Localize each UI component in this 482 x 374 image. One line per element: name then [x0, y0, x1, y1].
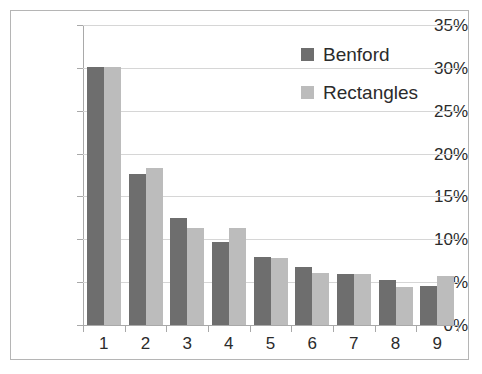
x-axis-tick-mark — [458, 326, 459, 332]
x-axis-tick-mark — [166, 326, 167, 332]
legend-item-rectangles[interactable]: Rectangles — [301, 73, 461, 111]
bar-benford-5 — [254, 257, 271, 325]
x-axis-tick-mark — [83, 326, 84, 332]
gridline — [83, 154, 458, 155]
bar-benford-7 — [337, 274, 354, 325]
x-axis-tick-label-6: 6 — [292, 335, 332, 352]
x-axis-tick-label-8: 8 — [376, 335, 416, 352]
bar-benford-2 — [129, 174, 146, 325]
x-axis-tick-mark — [375, 326, 376, 332]
bar-rectangles-1 — [104, 67, 121, 325]
x-axis-tick-mark — [333, 326, 334, 332]
legend-item-benford[interactable]: Benford — [301, 35, 461, 73]
bar-benford-3 — [170, 218, 187, 325]
bar-benford-9 — [420, 286, 437, 325]
x-axis-tick-mark — [250, 326, 251, 332]
legend-swatch-icon — [301, 48, 314, 61]
bar-rectangles-5 — [271, 258, 288, 325]
x-axis-tick-label-9: 9 — [417, 335, 457, 352]
legend-label: Benford — [323, 45, 390, 64]
chart-legend: BenfordRectangles — [301, 35, 461, 111]
legend-label: Rectangles — [323, 83, 418, 102]
chart-frame: 0%5%10%15%20%25%30%35% BenfordRectangles… — [10, 10, 469, 360]
x-axis-tick-mark — [125, 326, 126, 332]
bar-rectangles-7 — [354, 274, 371, 325]
bar-benford-8 — [379, 280, 396, 325]
bar-rectangles-9 — [437, 276, 454, 325]
bar-benford-4 — [212, 242, 229, 325]
bar-benford-6 — [295, 267, 312, 325]
bar-rectangles-4 — [229, 228, 246, 325]
x-axis-tick-mark — [208, 326, 209, 332]
gridline — [83, 325, 458, 326]
bar-rectangles-2 — [146, 168, 163, 325]
x-axis-tick-label-1: 1 — [84, 335, 124, 352]
bar-rectangles-8 — [396, 287, 413, 325]
x-axis-tick-mark — [291, 326, 292, 332]
x-axis-tick-label-3: 3 — [167, 335, 207, 352]
bar-rectangles-6 — [312, 273, 329, 325]
x-axis-tick-label-4: 4 — [209, 335, 249, 352]
gridline — [83, 25, 458, 26]
x-axis-tick-label-7: 7 — [334, 335, 374, 352]
legend-swatch-icon — [301, 86, 314, 99]
x-axis-tick-label-5: 5 — [251, 335, 291, 352]
x-axis-tick-label-2: 2 — [126, 335, 166, 352]
bar-rectangles-3 — [187, 228, 204, 325]
x-axis-tick-mark — [416, 326, 417, 332]
bar-benford-1 — [87, 67, 104, 325]
